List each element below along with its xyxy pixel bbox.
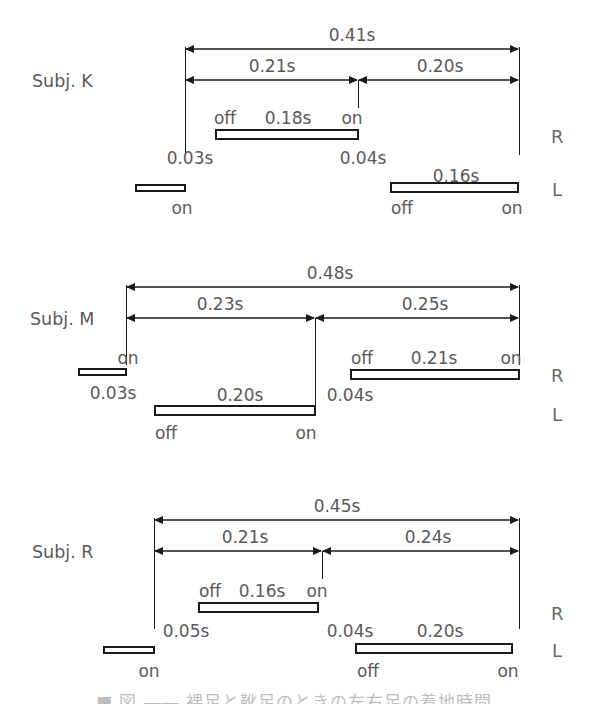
panel-m-l-bar-on-label: on: [295, 425, 316, 442]
panel-k-l-small-on-label: on: [171, 200, 192, 217]
panel-m-r-small-on-label: on: [117, 350, 138, 367]
panel-r-middle-reference-line: [322, 551, 323, 579]
panel-m-l-bar: [154, 405, 316, 416]
panel-r-l-small-on-label: on: [138, 663, 159, 680]
panel-k-side-label-right: R: [551, 128, 564, 146]
panel-m-middle-reference-line: [315, 318, 316, 413]
panel-k-r-bar-duration: 0.18s: [265, 110, 312, 127]
panel-m-total-duration: 0.48s: [307, 265, 354, 282]
panel-r-total-duration: 0.45s: [314, 498, 361, 515]
panel-r-side-label-right: R: [551, 605, 564, 623]
panel-k-r-bar: [215, 129, 359, 140]
panel-k-l-bar-off-label: off: [391, 200, 413, 217]
panel-k-left-segment-duration: 0.21s: [249, 58, 296, 75]
panel-m-l-bar-duration: 0.20s: [217, 387, 264, 404]
panel-k-r-bar-off-label: off: [214, 110, 236, 127]
panel-m-r-bar: [350, 369, 520, 380]
panel-k-right-segment-duration: 0.20s: [417, 58, 464, 75]
panel-r-l-small-bar: [103, 646, 155, 654]
figure-caption-clipped: ■ 図 ―― 裸足と靴足のときの左右足の着地時間: [0, 692, 592, 704]
panel-r-l-bar-duration: 0.20s: [417, 623, 464, 640]
panel-m-left-gap-duration: 0.03s: [90, 385, 137, 402]
panel-m-right-segment-duration: 0.25s: [402, 296, 449, 313]
panel-k-middle-reference-line: [358, 80, 359, 108]
panel-k-l-bar-on-label: on: [501, 200, 522, 217]
panel-r-l-bar: [355, 643, 513, 654]
panel-r-right-segment-duration: 0.24s: [405, 529, 452, 546]
subject-label-r: Subj. R: [32, 543, 93, 561]
panel-r-right-reference-line: [519, 518, 520, 629]
panel-m-r-bar-duration: 0.21s: [411, 350, 458, 367]
figure-caption-text: ■ 図 ―― 裸足と靴足のときの左右足の着地時間: [96, 692, 492, 704]
panel-m-side-label-left: L: [552, 406, 562, 424]
panel-r-right-gap-duration: 0.04s: [327, 623, 374, 640]
panel-r-left-gap-duration: 0.05s: [163, 623, 210, 640]
panel-r-r-bar-duration: 0.16s: [239, 583, 286, 600]
panel-r-l-bar-on-label: on: [497, 663, 518, 680]
timing-diagram-figure: Subj. K 0.41s 0.21s 0.20s off 0.18s on 0…: [0, 0, 592, 704]
panel-r-arrow-lines: [0, 485, 592, 685]
panel-m-r-small-bar: [78, 368, 127, 376]
panel-m-right-gap-duration: 0.04s: [327, 387, 374, 404]
panel-k-l-small-bar: [135, 184, 186, 192]
panel-k-right-reference-line: [519, 47, 520, 155]
panel-subject-r: Subj. R 0.45s 0.21s 0.24s off 0.16s on 0…: [0, 485, 592, 685]
panel-m-left-segment-duration: 0.23s: [197, 296, 244, 313]
panel-subject-m: Subj. M 0.48s 0.23s 0.25s on 0.03s off 0…: [0, 240, 592, 485]
panel-m-r-bar-on-label: on: [500, 350, 521, 367]
panel-r-r-bar-off-label: off: [199, 583, 221, 600]
panel-k-right-gap-duration: 0.04s: [340, 150, 387, 167]
panel-k-left-gap-duration: 0.03s: [167, 150, 214, 167]
panel-m-l-bar-off-label: off: [155, 425, 177, 442]
panel-r-r-bar: [198, 602, 319, 613]
panel-k-r-bar-on-label: on: [341, 110, 362, 127]
panel-m-side-label-right: R: [551, 367, 564, 385]
panel-m-r-bar-off-label: off: [351, 350, 373, 367]
panel-k-l-bar: [390, 182, 519, 193]
panel-r-side-label-left: L: [552, 642, 562, 660]
subject-label-k: Subj. K: [32, 72, 93, 90]
panel-r-l-bar-off-label: off: [357, 663, 379, 680]
panel-subject-k: Subj. K 0.41s 0.21s 0.20s off 0.18s on 0…: [0, 0, 592, 240]
panel-r-left-segment-duration: 0.21s: [222, 529, 269, 546]
panel-k-side-label-left: L: [552, 181, 562, 199]
subject-label-m: Subj. M: [30, 310, 94, 328]
panel-k-total-duration: 0.41s: [329, 27, 376, 44]
panel-r-left-reference-line: [154, 518, 155, 629]
panel-k-left-reference-line: [185, 47, 186, 155]
panel-r-r-bar-on-label: on: [306, 583, 327, 600]
